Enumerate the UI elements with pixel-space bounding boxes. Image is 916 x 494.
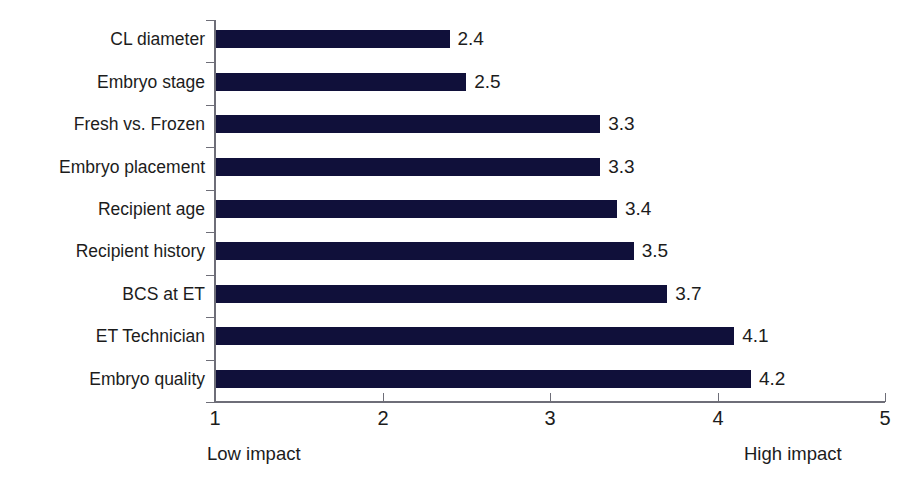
x-axis-tick-label: 3: [530, 406, 570, 430]
y-axis-tick: [206, 317, 215, 318]
bar: [216, 285, 667, 303]
bar: [216, 200, 617, 218]
bar: [216, 370, 751, 388]
category-label: Recipient history: [0, 241, 205, 261]
y-axis-tick: [206, 105, 215, 106]
x-axis-tick: [215, 393, 216, 402]
bar-value-label: 3.4: [625, 198, 651, 220]
category-label: Fresh vs. Frozen: [0, 114, 205, 134]
bar: [216, 30, 450, 48]
high-impact-annotation: High impact: [744, 443, 842, 465]
x-axis-tick-label: 2: [363, 406, 403, 430]
bar-value-label: 3.7: [675, 283, 701, 305]
bar: [216, 327, 734, 345]
y-axis-tick: [206, 190, 215, 191]
x-axis-tick-label: 4: [698, 406, 738, 430]
y-axis-tick: [206, 360, 215, 361]
y-axis-tick: [206, 62, 215, 63]
bar-value-label: 3.5: [642, 240, 668, 262]
bar-value-label: 3.3: [608, 156, 634, 178]
bar-value-label: 4.2: [759, 368, 785, 390]
category-label: Recipient age: [0, 199, 205, 219]
x-axis-tick: [718, 393, 719, 402]
x-axis-tick: [550, 393, 551, 402]
category-label: Embryo stage: [0, 72, 205, 92]
bar: [216, 158, 600, 176]
y-axis-tick: [206, 232, 215, 233]
category-label: Embryo quality: [0, 369, 205, 389]
y-axis-tick: [206, 402, 215, 403]
low-impact-annotation: Low impact: [207, 443, 301, 465]
bar-value-label: 3.3: [608, 113, 634, 135]
bar: [216, 73, 466, 91]
bar-value-label: 2.5: [474, 71, 500, 93]
bar-chart: CL diameter2.4Embryo stage2.5Fresh vs. F…: [0, 0, 916, 494]
y-axis-tick: [206, 147, 215, 148]
bar-value-label: 4.1: [742, 325, 768, 347]
y-axis-tick: [206, 20, 215, 21]
bar: [216, 242, 634, 260]
x-axis-tick: [383, 393, 384, 402]
x-axis-tick-label: 5: [865, 406, 905, 430]
category-label: Embryo placement: [0, 157, 205, 177]
bar: [216, 115, 600, 133]
category-label: CL diameter: [0, 29, 205, 49]
y-axis-tick: [206, 275, 215, 276]
x-axis-tick-label: 1: [195, 406, 235, 430]
category-label: BCS at ET: [0, 284, 205, 304]
x-axis-tick: [885, 393, 886, 402]
bar-value-label: 2.4: [458, 28, 484, 50]
category-label: ET Technician: [0, 326, 205, 346]
